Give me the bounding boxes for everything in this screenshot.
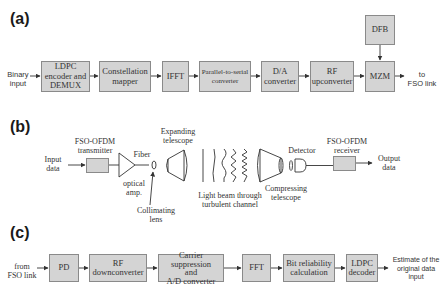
optical-amp-triangle (119, 153, 135, 177)
diagram-connectors (0, 0, 446, 295)
expanding-telescope-shape (168, 150, 184, 181)
compressing-telescope-shape (260, 149, 281, 182)
detector-lens (290, 161, 293, 171)
beam-2 (213, 149, 215, 182)
beam-5 (242, 149, 247, 182)
beam-3 (222, 149, 226, 182)
detector-shape (295, 159, 306, 172)
beam-4 (231, 149, 236, 182)
collimating-lens-shape (152, 161, 156, 169)
arrow-collimating-pointer (150, 172, 153, 205)
